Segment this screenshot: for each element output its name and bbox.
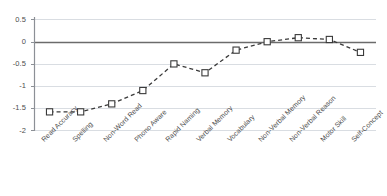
data-point-marker	[109, 101, 115, 107]
data-point-marker	[140, 87, 146, 93]
data-point-marker	[202, 70, 208, 76]
y-tick-label: -2	[4, 126, 26, 135]
y-tick-label: -1.5	[4, 103, 26, 112]
data-point-marker	[78, 109, 84, 115]
chart-container: 0.50-0.5-1-1.5-2 Read AccuracySpellingNo…	[0, 0, 387, 196]
y-tick-label: -1	[4, 81, 26, 90]
data-point-marker	[46, 109, 52, 115]
x-axis-tick-labels: Read AccuracySpellingNon-Word ReadPhono …	[0, 0, 387, 70]
